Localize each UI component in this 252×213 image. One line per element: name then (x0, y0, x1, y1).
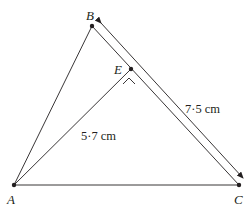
measurement-ae: 5·7 cm (81, 129, 116, 143)
point-e (129, 67, 133, 71)
label-e: E (113, 62, 122, 77)
point-b (90, 24, 94, 28)
label-c: C (234, 192, 243, 207)
side-ab (14, 26, 92, 185)
segment-ae (14, 69, 131, 185)
measurement-bc: 7·5 cm (185, 102, 220, 116)
triangle-diagram: B E A C 7·5 cm 5·7 cm (0, 0, 252, 213)
label-b: B (86, 8, 94, 23)
point-c (237, 183, 241, 187)
dimension-arrow-bc (101, 23, 243, 178)
label-a: A (6, 192, 15, 207)
angle-mark-e (123, 78, 135, 84)
point-a (12, 183, 16, 187)
